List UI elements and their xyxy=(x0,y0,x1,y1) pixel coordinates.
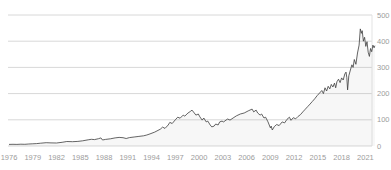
area-fill xyxy=(9,29,375,146)
x-tick-label-2012: 2012 xyxy=(286,153,303,162)
x-tick-label-1991: 1991 xyxy=(119,153,136,162)
y-tick-label-400: 400 xyxy=(377,37,390,46)
price-chart: 0100200300400500197619791982198519881991… xyxy=(0,0,391,170)
x-tick-label-2021: 2021 xyxy=(357,153,374,162)
x-tick-label-2015: 2015 xyxy=(310,153,327,162)
x-tick-label-2000: 2000 xyxy=(191,153,208,162)
x-tick-label-1994: 1994 xyxy=(143,153,160,162)
price-chart-container: 0100200300400500197619791982198519881991… xyxy=(0,0,391,170)
x-tick-label-1982: 1982 xyxy=(48,153,65,162)
x-tick-label-1997: 1997 xyxy=(167,153,184,162)
x-tick-label-2018: 2018 xyxy=(333,153,350,162)
y-tick-label-500: 500 xyxy=(377,11,390,20)
y-tick-label-100: 100 xyxy=(377,115,390,124)
x-tick-label-1985: 1985 xyxy=(72,153,89,162)
y-tick-label-200: 200 xyxy=(377,89,390,98)
x-tick-label-2006: 2006 xyxy=(238,153,255,162)
x-tick-label-1976: 1976 xyxy=(1,153,18,162)
x-tick-label-2003: 2003 xyxy=(214,153,231,162)
x-tick-label-2009: 2009 xyxy=(262,153,279,162)
x-tick-label-1979: 1979 xyxy=(24,153,41,162)
y-tick-label-300: 300 xyxy=(377,63,390,72)
x-tick-label-1988: 1988 xyxy=(96,153,113,162)
y-tick-label-0: 0 xyxy=(377,142,381,151)
